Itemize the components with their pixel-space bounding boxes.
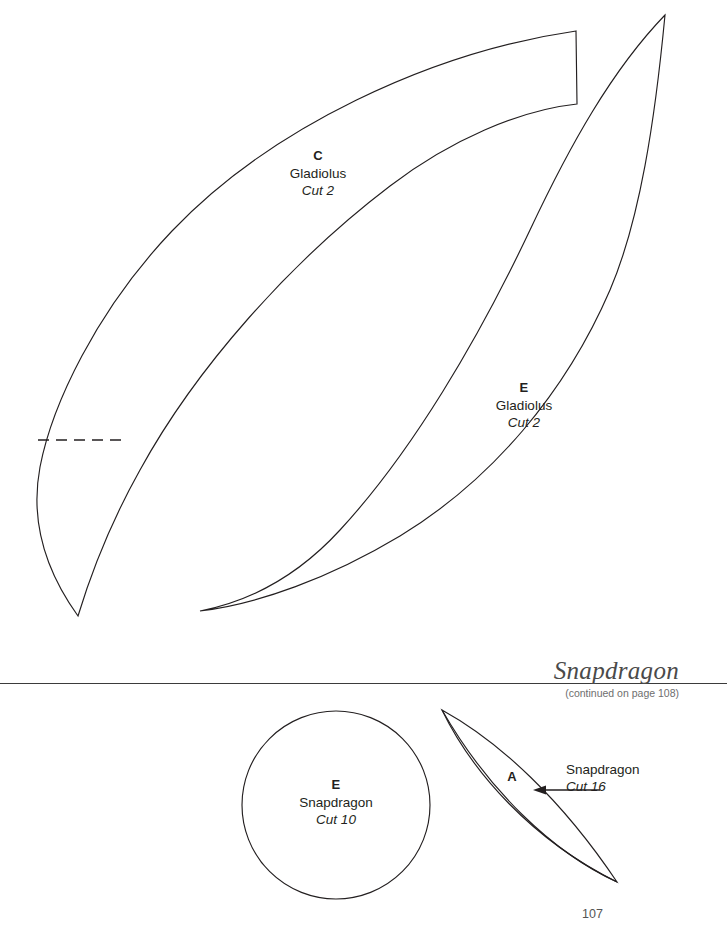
pattern-flower-name: Gladiolus <box>254 165 382 182</box>
pattern-cut-count: Cut 2 <box>460 414 588 431</box>
pattern-label-a-snapdragon: A <box>490 769 534 786</box>
shape-a-snapdragon-outline <box>442 710 617 882</box>
pattern-page: C Gladiolus Cut 2 E Gladiolus Cut 2 E Sn… <box>0 0 727 938</box>
pattern-cut-count: Cut 10 <box>272 811 400 828</box>
pattern-label-e-snapdragon: E Snapdragon Cut 10 <box>272 777 400 828</box>
pattern-label-e-gladiolus: E Gladiolus Cut 2 <box>460 380 588 431</box>
pattern-callout-a-snapdragon: Snapdragon Cut 16 <box>566 761 686 796</box>
page-number-value: 107 <box>582 907 603 921</box>
shape-a-snapdragon-outline-inner <box>442 710 617 882</box>
pattern-cut-count: Cut 2 <box>254 182 382 199</box>
pattern-letter: E <box>460 380 588 397</box>
pattern-flower-name: Snapdragon <box>272 794 400 811</box>
pattern-letter: C <box>254 148 382 165</box>
pattern-flower-name: Snapdragon <box>566 761 686 778</box>
pattern-label-c-gladiolus: C Gladiolus Cut 2 <box>254 148 382 199</box>
pattern-letter: A <box>490 769 534 786</box>
pattern-letter: E <box>272 777 400 794</box>
pattern-flower-name: Gladiolus <box>460 397 588 414</box>
shape-c-gladiolus-outline <box>37 31 577 616</box>
page-number: 107 <box>0 907 727 921</box>
pattern-cut-count: Cut 16 <box>566 778 686 795</box>
continued-note: (continued on page 108) <box>565 687 679 699</box>
section-title: Snapdragon <box>554 657 679 685</box>
shape-e-gladiolus-outline <box>200 15 665 611</box>
